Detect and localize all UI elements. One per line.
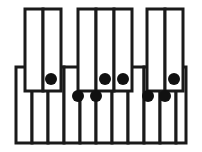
upper-key-6[interactable] bbox=[147, 9, 165, 91]
marker-8[interactable] bbox=[168, 73, 180, 85]
upper-key-3[interactable] bbox=[78, 9, 96, 91]
marker-1[interactable] bbox=[45, 73, 57, 85]
marker-2[interactable] bbox=[72, 90, 84, 102]
piano-keyboard-diagram bbox=[0, 0, 202, 152]
marker-7[interactable] bbox=[159, 90, 171, 102]
marker-4[interactable] bbox=[99, 73, 111, 85]
marker-3[interactable] bbox=[90, 90, 102, 102]
marker-6[interactable] bbox=[142, 90, 154, 102]
marker-5[interactable] bbox=[117, 73, 129, 85]
upper-key-1[interactable] bbox=[25, 9, 43, 91]
